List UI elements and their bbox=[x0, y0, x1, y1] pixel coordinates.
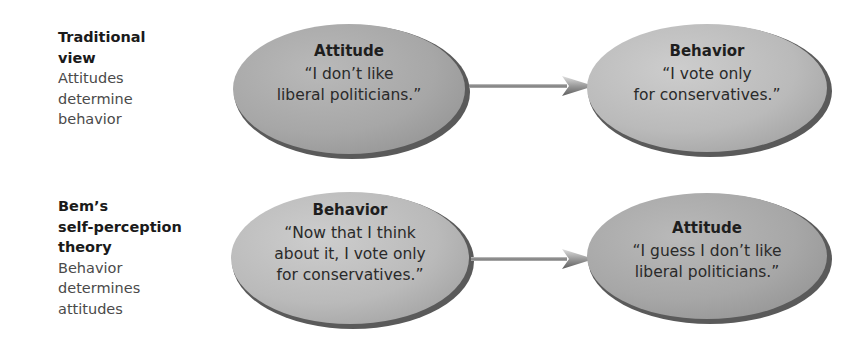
node-behavior-traditional: Behavior “I vote only for conservatives.… bbox=[607, 41, 807, 106]
row-title: self-perception bbox=[58, 217, 218, 238]
row-description: determine bbox=[58, 89, 208, 110]
node-attitude-bem: Attitude “I guess I don’t like liberal p… bbox=[597, 218, 817, 283]
node-quote: “Now that I think bbox=[245, 223, 455, 244]
node-quote: for conservatives.” bbox=[245, 265, 455, 286]
node-attitude-traditional: Attitude “I don’t like liberal politicia… bbox=[249, 41, 449, 106]
row-description: Behavior bbox=[58, 258, 218, 279]
right-arrow-icon bbox=[471, 249, 594, 269]
node-quote: liberal politicians.” bbox=[597, 262, 817, 283]
row-description: Attitudes bbox=[58, 68, 208, 89]
row-description: attitudes bbox=[58, 299, 218, 320]
right-arrow-icon bbox=[469, 76, 594, 96]
row-title: Bem’s bbox=[58, 196, 218, 217]
row-description: determines bbox=[58, 278, 218, 299]
row-label-self-perception: Bem’s self-perception theory Behavior de… bbox=[58, 196, 218, 319]
node-quote: for conservatives.” bbox=[607, 85, 807, 106]
node-quote: about it, I vote only bbox=[245, 244, 455, 265]
node-quote: liberal politicians.” bbox=[249, 85, 449, 106]
row-title: view bbox=[58, 48, 208, 69]
row-title: Traditional bbox=[58, 27, 208, 48]
row-label-traditional-view: Traditional view Attitudes determine beh… bbox=[58, 27, 208, 130]
node-quote: “I don’t like bbox=[249, 64, 449, 85]
node-quote: “I vote only bbox=[607, 64, 807, 85]
node-quote: “I guess I don’t like bbox=[597, 241, 817, 262]
node-heading: Behavior bbox=[607, 41, 807, 61]
row-title: theory bbox=[58, 237, 218, 258]
node-heading: Attitude bbox=[249, 41, 449, 61]
node-behavior-bem: Behavior “Now that I think about it, I v… bbox=[245, 200, 455, 286]
node-heading: Behavior bbox=[245, 200, 455, 220]
node-heading: Attitude bbox=[597, 218, 817, 238]
row-description: behavior bbox=[58, 109, 208, 130]
